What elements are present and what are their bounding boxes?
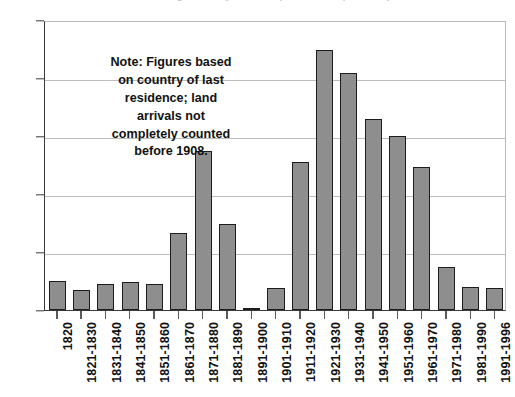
y-axis-tick-mark [36, 20, 44, 21]
x-axis-tick-mark [470, 311, 471, 319]
x-axis-tick-mark [397, 311, 398, 319]
x-axis-tick-mark [348, 311, 349, 319]
y-axis-tick-mark [36, 78, 44, 79]
x-axis-tick-label: 1961-1970 [426, 322, 440, 383]
chart-note-line: completely counted [97, 126, 245, 144]
x-axis-tick-mark [275, 311, 276, 319]
chart-note-line: arrivals not [97, 108, 245, 126]
bar [73, 290, 90, 310]
chart-note-line: residence; land [97, 90, 245, 108]
y-axis-tick-mark [36, 310, 44, 311]
x-axis-tick-label: 1921-1930 [329, 322, 343, 383]
x-axis-tick-mark [226, 311, 227, 319]
x-axis-tick-label: 1971-1980 [450, 322, 464, 383]
bar [170, 233, 187, 310]
x-axis-tick-mark [251, 311, 252, 319]
x-axis-tick-mark [299, 311, 300, 319]
bar [219, 224, 236, 310]
bar [438, 267, 455, 310]
bar [195, 151, 212, 310]
bar [340, 73, 357, 310]
bar [486, 288, 503, 310]
x-axis-tick-label: 1881-1890 [231, 322, 245, 383]
x-axis-tick-mark [56, 311, 57, 319]
chart-note-line: Note: Figures based [97, 54, 245, 72]
x-axis-tick-mark [445, 311, 446, 319]
chart-note-line: on country of last [97, 72, 245, 90]
x-axis-tick-label: 1951-1960 [402, 322, 416, 383]
x-axis-tick-label: 1861-1870 [183, 322, 197, 383]
x-axis-tick-label: 1941-1950 [377, 322, 391, 383]
y-axis-tick-mark [36, 136, 44, 137]
plot-area: Note: Figures basedon country of lastres… [44, 21, 506, 311]
x-axis-tick-label: 1901-1910 [280, 322, 294, 383]
x-axis-tick-label: 1871-1880 [207, 322, 221, 383]
chart-note-line: before 1908. [97, 143, 245, 161]
bar [243, 308, 260, 310]
x-axis-tick-label: 1981-1990 [475, 322, 489, 383]
y-axis-tick-mark [36, 194, 44, 195]
x-axis-tick-mark [80, 311, 81, 319]
bar [97, 284, 114, 310]
x-axis-tick-mark [494, 311, 495, 319]
x-axis-tick-label: 1841-1850 [134, 322, 148, 383]
x-axis-tick-mark [324, 311, 325, 319]
x-axis-tick-mark [202, 311, 203, 319]
bar [122, 282, 139, 310]
x-axis-tick-mark [105, 311, 106, 319]
x-axis-tick-label: 1851-1860 [158, 322, 172, 383]
x-axis-tick-label: 1991-1996 [499, 322, 513, 383]
bar [316, 50, 333, 310]
x-axis-tick-mark [153, 311, 154, 319]
bar [267, 288, 284, 310]
x-axis-tick-label: 1831-1840 [110, 322, 124, 383]
bar [292, 162, 309, 310]
bar [389, 136, 406, 310]
bar [365, 119, 382, 310]
x-axis-tick-label: 1911-1920 [304, 322, 318, 382]
clipped-chart-title: U.S. Immigration by Decade (millions of … [0, 0, 515, 13]
x-axis-tick-mark [372, 311, 373, 319]
x-axis-tick-label: 1891-1900 [256, 322, 270, 383]
x-axis-tick-mark [421, 311, 422, 319]
immigration-bar-chart-figure: U.S. Immigration by Decade (millions of … [0, 0, 515, 397]
chart-title-text: U.S. Immigration by Decade (millions of … [124, 0, 390, 1]
y-axis-tick-mark [36, 252, 44, 253]
x-axis-tick-mark [178, 311, 179, 319]
x-axis-tick-label: 1821-1830 [85, 322, 99, 383]
bar [49, 281, 66, 310]
bar [146, 284, 163, 310]
bar [462, 287, 479, 310]
x-axis-tick-label: 1820 [61, 322, 75, 350]
x-axis-tick-mark [129, 311, 130, 319]
chart-note: Note: Figures basedon country of lastres… [97, 54, 245, 161]
x-axis-tick-label: 1931-1940 [353, 322, 367, 383]
bar [413, 167, 430, 310]
